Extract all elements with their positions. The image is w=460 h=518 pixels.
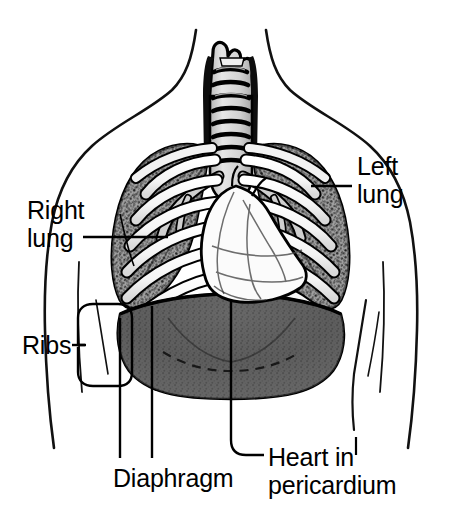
label-diaphragm: Diaphragm	[113, 464, 233, 492]
anatomy-figure: Right lung Left lung Ribs Diaphragm Hear…	[0, 0, 460, 518]
label-left-lung: Left lung	[357, 152, 403, 208]
label-heart-in-pericardium: Heart in pericardium	[268, 443, 396, 499]
diaphragm	[110, 290, 355, 405]
anatomy-illustration	[0, 0, 460, 518]
label-right-lung: Right lung	[27, 196, 84, 252]
label-ribs: Ribs	[22, 331, 71, 359]
